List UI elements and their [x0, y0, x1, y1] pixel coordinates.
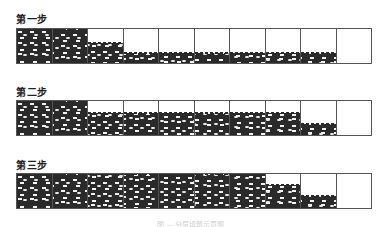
step-1-label: 第一步: [16, 11, 48, 26]
figure-caption: 图 — 分层填筑示意图: [0, 219, 381, 227]
cell-4: [124, 29, 160, 63]
cell-5: [159, 29, 195, 63]
cell-7: [230, 29, 266, 63]
cell-6: [195, 101, 231, 135]
cell-2: [53, 101, 89, 135]
cell-1: [17, 101, 53, 135]
cell-6: [195, 29, 231, 63]
step-3-label: 第三步: [16, 157, 48, 172]
cell-2: [53, 174, 89, 208]
rubble-fill: [17, 101, 52, 135]
rubble-fill: [230, 174, 265, 208]
step-2-label: 第二步: [16, 84, 48, 99]
cell-10: [337, 174, 372, 208]
cell-3: [88, 101, 124, 135]
rubble-fill: [124, 113, 159, 135]
cell-4: [124, 101, 160, 135]
cell-5: [159, 101, 195, 135]
cell-9: [301, 29, 337, 63]
rubble-fill: [195, 113, 230, 135]
rubble-fill: [230, 113, 265, 135]
rubble-fill: [53, 101, 88, 135]
cell-7: [230, 174, 266, 208]
cell-9: [301, 174, 337, 208]
rubble-fill: [230, 53, 265, 63]
rubble-fill: [124, 53, 159, 63]
rubble-fill: [88, 113, 123, 135]
cell-8: [266, 29, 302, 63]
step-3-row: [16, 173, 372, 209]
rubble-fill: [17, 174, 52, 208]
cell-1: [17, 29, 53, 63]
cell-1: [17, 174, 53, 208]
cell-4: [124, 174, 160, 208]
cell-9: [301, 101, 337, 135]
rubble-fill: [88, 174, 123, 208]
cell-8: [266, 101, 302, 135]
rubble-fill: [124, 174, 159, 208]
cell-8: [266, 174, 302, 208]
cell-10: [337, 101, 372, 135]
rubble-fill: [88, 43, 123, 63]
cell-7: [230, 101, 266, 135]
rubble-fill: [159, 174, 194, 208]
rubble-fill: [17, 29, 52, 63]
rubble-fill: [159, 53, 194, 63]
rubble-fill: [266, 113, 301, 135]
rubble-fill: [266, 185, 301, 208]
cell-10: [337, 29, 372, 63]
rubble-fill: [301, 196, 336, 208]
rubble-fill: [53, 174, 88, 208]
rubble-fill: [195, 174, 230, 208]
cell-6: [195, 174, 231, 208]
cell-2: [53, 29, 89, 63]
rubble-fill: [301, 53, 336, 63]
rubble-fill: [266, 53, 301, 63]
rubble-fill: [159, 113, 194, 135]
step-1-row: [16, 28, 372, 64]
rubble-fill: [301, 124, 336, 135]
rubble-fill: [195, 53, 230, 63]
cell-3: [88, 29, 124, 63]
cell-3: [88, 174, 124, 208]
cell-5: [159, 174, 195, 208]
step-2-row: [16, 100, 372, 136]
rubble-fill: [53, 29, 88, 63]
